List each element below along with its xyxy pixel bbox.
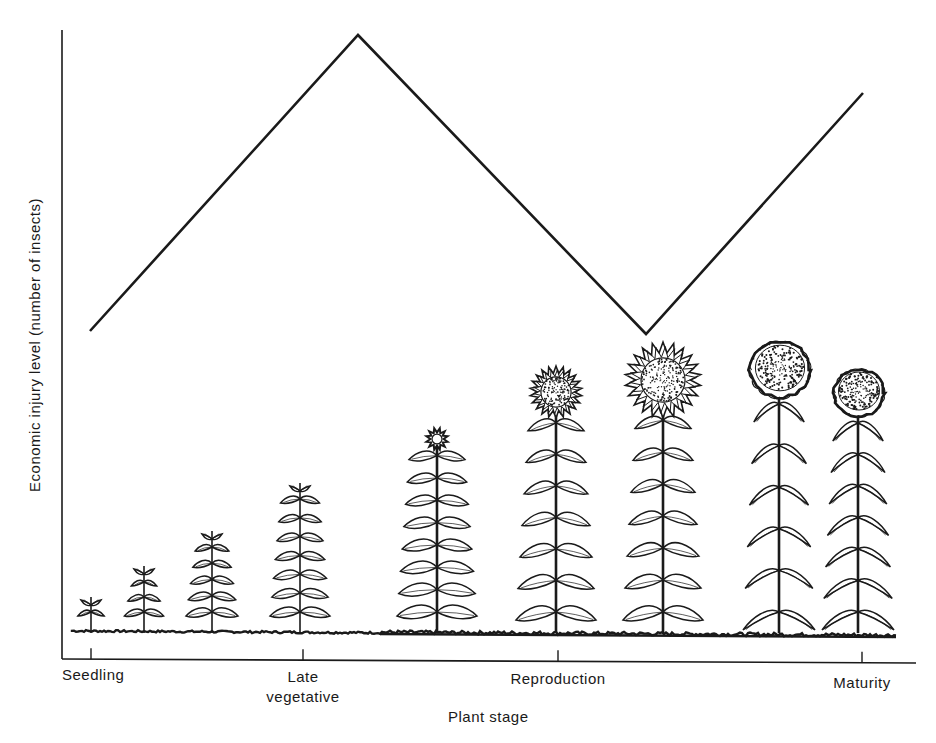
disk-stipple bbox=[655, 379, 656, 380]
disk-stipple bbox=[779, 370, 780, 371]
disk-stipple bbox=[785, 369, 786, 370]
y-axis-title: Economic injury level (number of insects… bbox=[26, 198, 43, 492]
disk-stipple bbox=[669, 392, 671, 394]
disk-stipple bbox=[672, 370, 674, 372]
disk-stipple bbox=[680, 371, 682, 373]
disk-stipple bbox=[777, 369, 778, 370]
disk-stipple bbox=[549, 384, 551, 386]
disk-stipple bbox=[858, 393, 859, 394]
plant-illustrations bbox=[72, 341, 896, 637]
disk-stipple bbox=[768, 379, 770, 381]
disk-stipple bbox=[785, 365, 786, 366]
disk-stipple bbox=[680, 370, 682, 372]
disk-stipple bbox=[667, 384, 668, 385]
disk-stipple bbox=[853, 405, 855, 407]
disk-stipple bbox=[857, 391, 858, 392]
disk-stipple bbox=[657, 369, 658, 370]
disk-stipple bbox=[564, 385, 566, 387]
disk-stipple bbox=[644, 388, 646, 390]
disk-stipple bbox=[855, 388, 856, 389]
plant-seedling bbox=[78, 597, 104, 633]
disk-stipple bbox=[669, 389, 671, 391]
disk-stipple bbox=[867, 394, 869, 396]
disk-stipple bbox=[788, 385, 790, 387]
disk-stipple bbox=[789, 367, 791, 369]
disk-stipple bbox=[669, 399, 671, 401]
disk-stipple bbox=[657, 396, 659, 398]
disk-stipple bbox=[671, 383, 672, 384]
disk-stipple bbox=[659, 359, 661, 361]
disk-stipple bbox=[775, 353, 777, 355]
leaf bbox=[134, 569, 144, 575]
disk-stipple bbox=[778, 388, 780, 390]
disk-stipple bbox=[859, 392, 860, 393]
disk-stipple bbox=[544, 386, 546, 388]
disk-stipple bbox=[866, 405, 868, 407]
disk-stipple bbox=[772, 371, 773, 372]
disk-stipple bbox=[865, 396, 867, 398]
disk-stipple bbox=[650, 387, 652, 389]
disk-stipple bbox=[772, 368, 773, 369]
disk-stipple bbox=[794, 380, 796, 382]
disk-stipple bbox=[866, 395, 868, 397]
disk-stipple bbox=[560, 386, 561, 387]
disk-stipple bbox=[652, 364, 654, 366]
disk-stipple bbox=[554, 387, 555, 388]
disk-stipple bbox=[869, 405, 871, 407]
disk-stipple bbox=[795, 371, 797, 373]
disk-stipple bbox=[876, 391, 878, 393]
disk-stipple bbox=[657, 399, 659, 401]
disk-stipple bbox=[676, 376, 678, 378]
disk-stipple bbox=[852, 407, 854, 409]
disk-stipple bbox=[675, 373, 677, 375]
disk-stipple bbox=[545, 383, 547, 385]
disk-stipple bbox=[774, 362, 775, 363]
disk-stipple bbox=[778, 361, 779, 362]
disk-stipple bbox=[789, 381, 791, 383]
disk-stipple bbox=[672, 375, 673, 376]
disk-stipple bbox=[871, 394, 873, 396]
disk-stipple bbox=[863, 388, 864, 389]
disk-stipple bbox=[672, 361, 674, 363]
disk-stipple bbox=[771, 379, 773, 381]
disk-stipple bbox=[860, 386, 861, 387]
disk-stipple bbox=[848, 396, 850, 398]
disk-stipple bbox=[766, 375, 768, 377]
disk-stipple bbox=[779, 374, 780, 375]
disk-stipple bbox=[642, 383, 644, 385]
disk-stipple bbox=[659, 377, 660, 378]
disk-stipple bbox=[568, 385, 570, 387]
disk-stipple bbox=[663, 369, 664, 370]
leaf bbox=[528, 419, 556, 431]
disk-stipple bbox=[663, 392, 665, 394]
plant-seed-fill bbox=[743, 341, 815, 633]
disk-stipple bbox=[663, 381, 664, 382]
disk-stipple bbox=[561, 402, 563, 404]
disk-stipple bbox=[544, 398, 546, 400]
disk-stipple bbox=[764, 384, 766, 386]
disk-stipple bbox=[799, 370, 801, 372]
disk-stipple bbox=[663, 400, 665, 402]
disk-stipple bbox=[563, 388, 565, 390]
disk-stipple bbox=[669, 372, 670, 373]
x-tick-label: Maturity bbox=[833, 673, 890, 693]
disk-stipple bbox=[870, 401, 872, 403]
disk-stipple bbox=[773, 364, 774, 365]
disk-stipple bbox=[791, 374, 793, 376]
disk-stipple bbox=[870, 383, 872, 385]
disk-stipple bbox=[859, 372, 861, 374]
disk-stipple bbox=[678, 380, 680, 382]
disk-stipple bbox=[654, 366, 656, 368]
disk-stipple bbox=[802, 366, 804, 368]
disk-stipple bbox=[792, 385, 794, 387]
disk-stipple bbox=[842, 390, 844, 392]
disk-stipple bbox=[548, 388, 550, 390]
disk-stipple bbox=[870, 377, 872, 379]
disk-stipple bbox=[854, 379, 856, 381]
disk-stipple bbox=[876, 397, 878, 399]
disk-stipple bbox=[661, 361, 663, 363]
disk-stipple bbox=[650, 382, 652, 384]
disk-stipple bbox=[796, 365, 798, 367]
disk-stipple bbox=[852, 383, 854, 385]
disk-stipple bbox=[771, 375, 773, 377]
